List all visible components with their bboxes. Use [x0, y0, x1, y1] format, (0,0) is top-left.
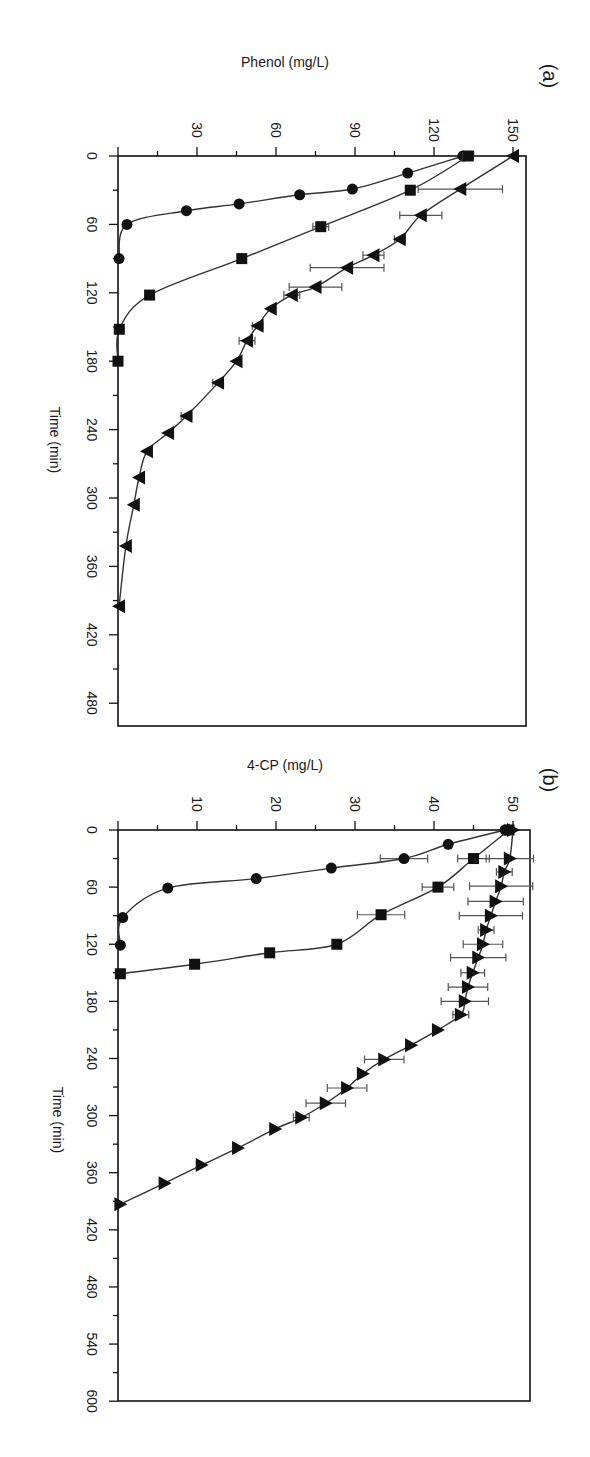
marker-circle	[294, 189, 305, 200]
marker-circle	[251, 873, 262, 884]
time-tick-label: 300	[84, 1104, 100, 1128]
value-tick-label: 10	[189, 796, 205, 812]
value-tick-label: 30	[347, 796, 363, 812]
time-tick-label: 180	[84, 350, 100, 374]
time-tick-label: 480	[84, 692, 100, 716]
value-axis-label: 4-CP (mg/L)	[247, 757, 323, 773]
marker-square	[114, 324, 125, 335]
time-tick-label: 240	[84, 1047, 100, 1071]
marker-circle	[326, 863, 337, 874]
time-tick-label: 60	[84, 879, 100, 895]
marker-circle	[398, 853, 409, 864]
marker-circle	[115, 940, 126, 951]
time-tick-label: 300	[84, 486, 100, 510]
value-tick-label: 120	[426, 118, 442, 142]
marker-circle	[347, 184, 358, 195]
marker-square	[144, 290, 155, 301]
time-axis-label: Time (min)	[50, 1087, 66, 1153]
time-tick-label: 120	[84, 281, 100, 305]
marker-square	[331, 939, 342, 950]
marker-square	[113, 356, 124, 367]
marker-circle	[114, 253, 125, 264]
marker-square	[264, 947, 275, 958]
marker-circle	[117, 912, 128, 923]
marker-circle	[234, 198, 245, 209]
value-tick-label: 150	[505, 118, 521, 142]
time-tick-label: 420	[84, 623, 100, 647]
marker-circle	[402, 168, 413, 179]
value-tick-label: 40	[426, 796, 442, 812]
marker-circle	[162, 883, 173, 894]
time-axis-label: Time (min)	[47, 407, 63, 473]
time-tick-label: 180	[84, 990, 100, 1014]
time-tick-label: 120	[84, 933, 100, 957]
marker-circle	[121, 219, 132, 230]
time-tick-label: 420	[84, 1218, 100, 1242]
marker-circle	[443, 839, 454, 850]
marker-square	[189, 959, 200, 970]
panel-label: (a)	[539, 64, 561, 88]
time-tick-label: 60	[84, 217, 100, 233]
marker-square	[115, 968, 126, 979]
marker-square	[236, 253, 247, 264]
value-tick-label: 30	[189, 122, 205, 138]
marker-square	[405, 185, 416, 196]
marker-square	[376, 909, 387, 920]
marker-square	[432, 882, 443, 893]
value-tick-label: 50	[505, 796, 521, 812]
figure: 306090120150060120180240300360420480Phen…	[0, 0, 590, 1457]
marker-square	[463, 151, 474, 162]
marker-square	[315, 221, 326, 232]
value-tick-label: 60	[268, 122, 284, 138]
time-tick-label: 240	[84, 418, 100, 442]
value-axis-label: Phenol (mg/L)	[241, 54, 329, 70]
time-tick-label: 360	[84, 555, 100, 579]
time-tick-label: 0	[84, 152, 100, 160]
value-tick-label: 90	[347, 122, 363, 138]
time-tick-label: 0	[84, 826, 100, 834]
time-tick-label: 360	[84, 1161, 100, 1185]
time-tick-label: 540	[84, 1332, 100, 1356]
time-tick-label: 480	[84, 1275, 100, 1299]
panel-label: (b)	[539, 768, 561, 792]
marker-circle	[181, 205, 192, 216]
marker-square	[468, 853, 479, 864]
value-tick-label: 20	[268, 796, 284, 812]
time-tick-label: 600	[84, 1390, 100, 1414]
